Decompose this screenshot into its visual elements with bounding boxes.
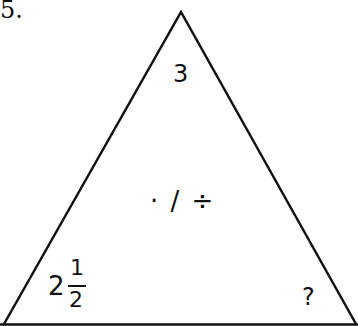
fraction-denominator: 2 [69,287,83,312]
bottom-left-value: 2 1 2 [48,257,108,317]
fraction-numerator: 1 [70,255,84,280]
top-value: 3 [173,60,188,88]
operations-label: · / ÷ [150,186,215,216]
bottom-right-unknown: ? [302,283,315,311]
mixed-whole: 2 [48,271,65,301]
